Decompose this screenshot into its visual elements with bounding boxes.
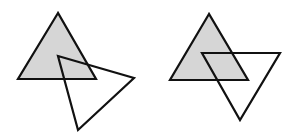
right-figure: [170, 14, 280, 120]
left-shaded-triangle: [18, 13, 96, 79]
diagram-canvas: [0, 0, 296, 139]
left-figure: [18, 13, 134, 130]
right-shaded-triangle: [170, 14, 248, 80]
